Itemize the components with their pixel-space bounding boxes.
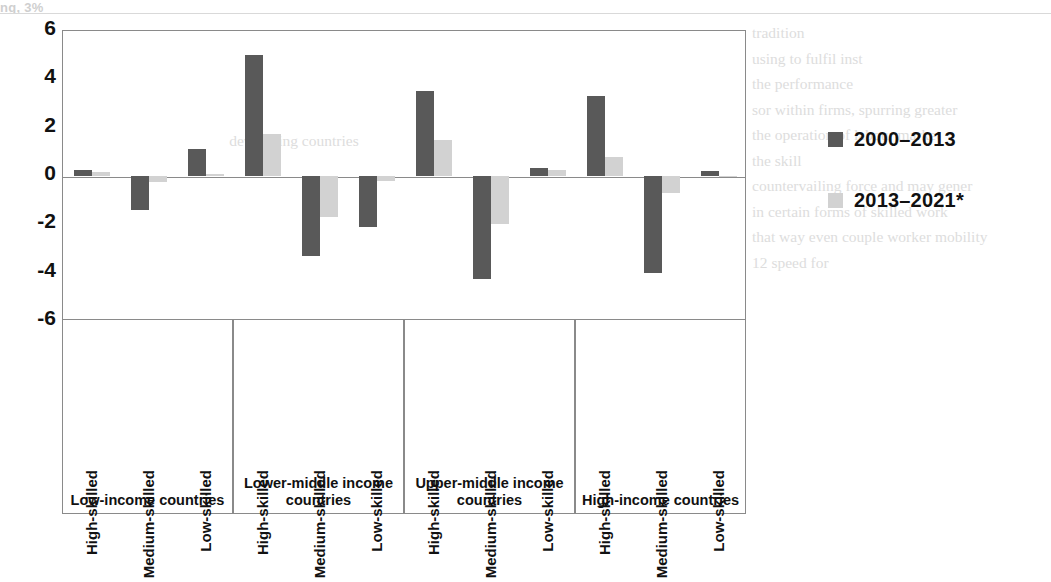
legend-swatch-icon <box>828 193 843 208</box>
category-group-2: Lower-middle income countriesHigh-skille… <box>233 320 404 514</box>
bar-series2 <box>92 172 110 176</box>
bar-series1 <box>131 176 149 210</box>
y-axis-tick-label: -6 <box>10 306 56 330</box>
category-axis-label: High-skilled <box>426 470 442 582</box>
bar-series2 <box>491 176 509 224</box>
category-group-1: Low-income countriesHigh-skilledMedium-s… <box>62 320 233 514</box>
bar-series2 <box>434 140 452 176</box>
category-axis-label: Medium-skilled <box>483 470 499 582</box>
bar-series1 <box>416 91 434 176</box>
bar-series1 <box>359 176 377 227</box>
bar-series2 <box>377 176 395 181</box>
category-axis-label: High-skilled <box>84 470 100 582</box>
category-group-3: Upper-middle income countriesHigh-skille… <box>404 320 575 514</box>
bar-series1 <box>188 149 206 176</box>
bar-series2 <box>263 134 281 176</box>
category-group-4: High-income countriesHigh-skilledMedium-… <box>575 320 746 514</box>
legend: 2000–20132013–2021* <box>828 128 1028 250</box>
legend-label: 2000–2013 <box>854 128 956 151</box>
y-axis-tick-label: 0 <box>10 161 56 185</box>
y-axis-tick-label: 4 <box>10 64 56 88</box>
y-axis-tick-label: -4 <box>10 258 56 282</box>
bar-series1 <box>245 55 263 176</box>
bar-series2 <box>320 176 338 217</box>
bar-series2 <box>548 170 566 176</box>
bar-series1 <box>587 96 605 176</box>
plot-area <box>62 30 746 320</box>
category-axis-label: Medium-skilled <box>654 470 670 582</box>
category-label-band: Low-income countriesHigh-skilledMedium-s… <box>62 320 746 514</box>
bar-series1 <box>701 171 719 176</box>
y-axis-tick-label: 2 <box>10 113 56 137</box>
bar-series1 <box>530 168 548 176</box>
bar-series2 <box>149 176 167 182</box>
legend-item-2: 2013–2021* <box>828 189 1028 212</box>
legend-swatch-icon <box>828 132 843 147</box>
legend-label: 2013–2021* <box>854 189 964 212</box>
category-axis-label: Low-skilled <box>711 470 727 582</box>
bar-series1 <box>473 176 491 279</box>
bar-series1 <box>302 176 320 256</box>
category-axis-label: Low-skilled <box>198 470 214 582</box>
category-axis-label: Medium-skilled <box>141 470 157 582</box>
y-axis-tick-label: 6 <box>10 16 56 40</box>
bar-series2 <box>662 176 680 193</box>
y-axis-tick-label: -2 <box>10 209 56 233</box>
bar-series2 <box>206 174 224 176</box>
bar-series2 <box>605 157 623 176</box>
category-axis-label: High-skilled <box>597 470 613 582</box>
category-axis-label: Low-skilled <box>369 470 385 582</box>
legend-item-1: 2000–2013 <box>828 128 1028 151</box>
category-axis-label: High-skilled <box>255 470 271 582</box>
bar-series1 <box>74 170 92 176</box>
bar-series1 <box>644 176 662 273</box>
y-axis: 6420-2-4-6 <box>0 0 56 538</box>
category-axis-label: Low-skilled <box>540 470 556 582</box>
category-axis-label: Medium-skilled <box>312 470 328 582</box>
bar-series2 <box>719 176 737 177</box>
